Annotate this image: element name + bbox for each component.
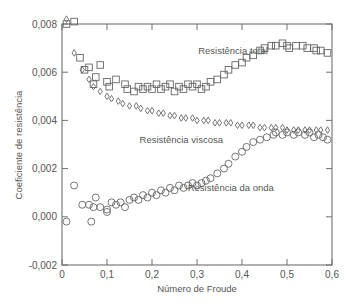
circle-marker (63, 218, 70, 225)
diamond-marker (72, 50, 76, 57)
diamond-marker (150, 107, 154, 114)
square-marker (131, 88, 138, 95)
diamond-marker (262, 124, 266, 131)
y-axis-title: Coeficiente de resistência (13, 90, 24, 199)
x-axis-title: Número de Froude (157, 283, 237, 294)
circle-marker (243, 143, 250, 150)
square-marker (135, 83, 142, 90)
square-marker (198, 86, 205, 93)
square-marker (299, 42, 306, 49)
diamond-marker (240, 122, 244, 129)
diamond-marker (184, 115, 188, 122)
square-marker (122, 81, 129, 88)
circle-marker (257, 136, 264, 143)
diamond-marker (172, 112, 176, 119)
circle-marker (88, 218, 95, 225)
x-tick-label: 0,6 (325, 269, 339, 280)
square-marker (144, 83, 151, 90)
diamond-marker (213, 120, 217, 127)
x-tick-label: 0,4 (235, 269, 249, 280)
diamond-marker (179, 115, 183, 122)
diamond-marker (161, 110, 165, 117)
diamond-marker (258, 124, 262, 131)
x-tick-label: 0,5 (280, 269, 294, 280)
diamond-marker (251, 122, 255, 129)
square-marker (313, 47, 320, 54)
square-marker (304, 45, 311, 52)
diamond-marker (206, 117, 210, 124)
diamond-marker (105, 93, 109, 100)
circle-marker (250, 139, 257, 146)
square-marker (158, 86, 165, 93)
diamond-marker (109, 95, 113, 102)
diamond-marker (224, 120, 228, 127)
x-axis-tick-labels: 00,10,20,30,40,50,6 (59, 269, 339, 280)
series-label: Resistência da onda (188, 182, 275, 193)
square-marker (293, 42, 300, 49)
circle-marker (97, 204, 104, 211)
diamond-marker (195, 117, 199, 124)
y-tick-label: -0,002 (29, 260, 58, 271)
square-marker (268, 42, 275, 49)
y-tick-label: 0,008 (32, 19, 57, 30)
square-marker (167, 81, 174, 88)
square-marker (207, 79, 214, 86)
circle-marker (79, 201, 86, 208)
square-marker (149, 86, 156, 93)
square-marker (214, 76, 221, 83)
x-tick-label: 0,1 (100, 269, 114, 280)
diamond-marker (139, 105, 143, 112)
square-marker (171, 88, 178, 95)
diamond-marker (127, 103, 131, 110)
diamond-marker (134, 103, 138, 110)
circle-marker (263, 134, 270, 141)
square-marker (221, 71, 228, 78)
y-tick-label: 0,000 (32, 211, 57, 222)
square-marker (286, 45, 293, 52)
square-marker (194, 81, 201, 88)
diamond-marker (202, 117, 206, 124)
diamond-marker (325, 127, 329, 134)
square-marker (124, 86, 131, 93)
square-marker (232, 62, 239, 69)
square-marker (225, 66, 232, 73)
square-marker (162, 83, 169, 90)
circle-marker (122, 204, 129, 211)
diamond-marker (229, 120, 233, 127)
diamond-marker (116, 98, 120, 105)
diamond-marker (235, 122, 239, 129)
square-marker (153, 81, 160, 88)
circle-marker (232, 153, 239, 160)
circle-marker (225, 160, 232, 167)
square-marker (92, 74, 99, 81)
square-marker (203, 83, 210, 90)
square-marker (77, 54, 84, 61)
diamond-marker (217, 120, 221, 127)
square-marker (239, 59, 246, 66)
square-marker (86, 64, 93, 71)
diamond-marker (64, 16, 68, 23)
square-marker (180, 86, 187, 93)
diamond-marker (145, 107, 149, 114)
series-label: Resistência viscosa (140, 134, 224, 145)
square-marker (189, 83, 196, 90)
square-marker (113, 76, 120, 83)
square-marker (311, 45, 318, 52)
diamond-marker (91, 83, 95, 90)
data-series (63, 16, 331, 225)
diamond-marker (168, 112, 172, 119)
y-axis-tick-labels: -0,0020,0000,0020,0040,0060,008 (29, 19, 58, 271)
square-marker (185, 81, 192, 88)
diamond-marker (190, 115, 194, 122)
diamond-marker (98, 88, 102, 95)
y-tick-label: 0,006 (32, 67, 57, 78)
diamond-marker (247, 122, 251, 129)
y-tick-label: 0,004 (32, 115, 57, 126)
square-marker (97, 62, 104, 69)
x-tick-label: 0,3 (190, 269, 204, 280)
y-tick-label: 0,002 (32, 163, 57, 174)
square-marker (317, 47, 324, 54)
square-marker (176, 83, 183, 90)
square-marker (272, 42, 279, 49)
square-marker (324, 50, 331, 57)
